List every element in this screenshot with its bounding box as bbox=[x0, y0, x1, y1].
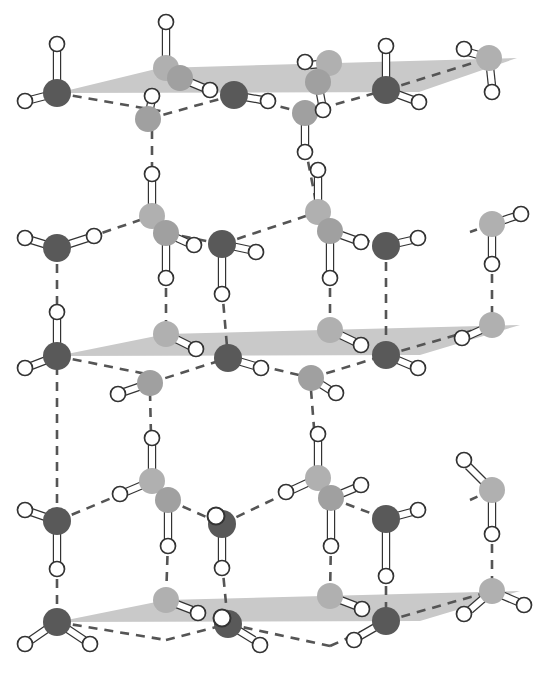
hydrogen-atom bbox=[87, 229, 102, 244]
hydrogen-atom bbox=[457, 453, 472, 468]
hydrogen-atom-circle bbox=[379, 39, 394, 54]
hydrogen-atom-circle bbox=[411, 361, 426, 376]
hydrogen-atom-circle bbox=[311, 163, 326, 178]
hydrogen-atom bbox=[412, 95, 427, 110]
hydrogen-atom bbox=[329, 386, 344, 401]
hydrogen-atom-circle bbox=[145, 167, 160, 182]
hydrogen-atom-circle bbox=[113, 487, 128, 502]
hydrogen-atom bbox=[18, 231, 33, 246]
hydrogen-atom-circle bbox=[354, 338, 369, 353]
oxygen-atom-front-dark bbox=[43, 79, 71, 107]
oxygen-atom-mid-light bbox=[155, 487, 181, 513]
hydrogen-atom-circle bbox=[347, 633, 362, 648]
hydrogen-atom bbox=[254, 361, 269, 376]
hydrogen-atom-circle bbox=[189, 342, 204, 357]
hydrogen-atom bbox=[18, 94, 33, 109]
oxygen-atom-mid-light bbox=[135, 106, 161, 132]
hydrogen-atom-circle bbox=[517, 598, 532, 613]
hydrogen-atom bbox=[249, 245, 264, 260]
oxygen-atom-back-light bbox=[476, 45, 502, 71]
hydrogen-atom bbox=[18, 637, 33, 652]
oxygen-atom-back-light bbox=[317, 317, 343, 343]
hydrogen-atom-circle bbox=[249, 245, 264, 260]
hydrogen-atom-circle bbox=[18, 231, 33, 246]
oxygen-atom-back-light bbox=[153, 321, 179, 347]
hydrogen-atom-circle bbox=[159, 15, 174, 30]
oxygen-atom-back-light bbox=[317, 583, 343, 609]
hydrogen-atom-circle bbox=[514, 207, 529, 222]
oxygen-atom-front-dark bbox=[43, 507, 71, 535]
hydrogen-atom-circle bbox=[111, 387, 126, 402]
hydrogen-atom bbox=[316, 103, 331, 118]
hydrogen-atom bbox=[411, 361, 426, 376]
hydrogen-atom bbox=[18, 361, 33, 376]
oxygen-atom-back-light bbox=[479, 578, 505, 604]
hydrogen-atom bbox=[298, 55, 313, 70]
hydrogen-atom bbox=[517, 598, 532, 613]
hydrogen-atom-circle bbox=[412, 95, 427, 110]
front-facing-hydrogen-circle bbox=[208, 508, 225, 525]
hydrogen-atom-circle bbox=[379, 569, 394, 584]
hydrogen-atom-circle bbox=[279, 485, 294, 500]
hydrogen-atom bbox=[411, 231, 426, 246]
hydrogen-atom bbox=[485, 527, 500, 542]
oxygen-atom-front-dark bbox=[208, 230, 236, 258]
hydrogen-atom bbox=[354, 338, 369, 353]
hydrogen-atom bbox=[261, 94, 276, 109]
hydrogen-atom-circle bbox=[354, 235, 369, 250]
hydrogen-atom-circle bbox=[323, 271, 338, 286]
oxygen-atom-mid-light bbox=[317, 218, 343, 244]
hydrogen-atom-circle bbox=[18, 503, 33, 518]
hydrogen-atom-circle bbox=[298, 55, 313, 70]
hydrogen-atom bbox=[279, 485, 294, 500]
oxygen-atom-front-dark bbox=[372, 76, 400, 104]
hydrogen-atom-circle bbox=[411, 503, 426, 518]
hydrogen-atom bbox=[457, 42, 472, 57]
hydrogen-atom-circle bbox=[355, 602, 370, 617]
hydrogen-atom-circle bbox=[455, 331, 470, 346]
hydrogen-atom bbox=[189, 342, 204, 357]
hydrogen-atom-circle bbox=[253, 638, 268, 653]
hydrogen-atom-circle bbox=[161, 539, 176, 554]
hydrogen-atom bbox=[253, 638, 268, 653]
oxygen-atom-front-dark bbox=[43, 608, 71, 636]
oxygen-atom-front-dark bbox=[372, 607, 400, 635]
hydrogen-atom bbox=[457, 607, 472, 622]
hydrogen-atom bbox=[485, 257, 500, 272]
oxygen-atom-front-dark bbox=[214, 344, 242, 372]
hydrogen-atom bbox=[50, 305, 65, 320]
oxygen-atom-mid-light bbox=[305, 69, 331, 95]
hydrogen-atom-circle bbox=[215, 287, 230, 302]
hydrogen-atom bbox=[379, 39, 394, 54]
oxygen-atom-back-light bbox=[479, 477, 505, 503]
hydrogen-atom bbox=[83, 637, 98, 652]
hydrogen-atom-circle bbox=[324, 539, 339, 554]
hydrogen-atom bbox=[324, 539, 339, 554]
hydrogen-atom-circle bbox=[261, 94, 276, 109]
hydrogen-atom-circle bbox=[187, 238, 202, 253]
hydrogen-atom-circle bbox=[457, 42, 472, 57]
hydrogen-atom-circle bbox=[18, 637, 33, 652]
oxygen-atom-mid-light bbox=[153, 220, 179, 246]
front-facing-hydrogen-circle bbox=[214, 610, 231, 627]
hydrogen-atom bbox=[485, 85, 500, 100]
oxygen-atom-back-light bbox=[479, 312, 505, 338]
hydrogen-atom-circle bbox=[457, 607, 472, 622]
oxygen-atom-front-dark bbox=[372, 341, 400, 369]
oxygen-atom-front-dark bbox=[372, 505, 400, 533]
hydrogen-atom-circle bbox=[457, 453, 472, 468]
oxygen-atom-front-dark bbox=[43, 234, 71, 262]
hydrogen-atom bbox=[354, 235, 369, 250]
hydrogen-atom-circle bbox=[254, 361, 269, 376]
oxygen-atom-mid-light bbox=[137, 370, 163, 396]
hydrogen-atom bbox=[113, 487, 128, 502]
hydrogen-atom bbox=[159, 271, 174, 286]
hydrogen-atom bbox=[145, 89, 160, 104]
hydrogen-atom-circle bbox=[83, 637, 98, 652]
hydrogen-atom bbox=[50, 562, 65, 577]
hydrogen-atom bbox=[411, 503, 426, 518]
hydrogen-atom bbox=[215, 287, 230, 302]
hydrogen-atom-circle bbox=[50, 305, 65, 320]
hydrogen-atom-circle bbox=[145, 431, 160, 446]
hydrogen-atom-circle bbox=[18, 94, 33, 109]
